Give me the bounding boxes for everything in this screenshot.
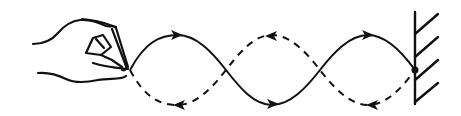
fixed-wall: [415, 12, 438, 104]
fixed-point-dot: [412, 67, 419, 74]
diagram-canvas: [0, 0, 461, 116]
solid-wave: [130, 35, 415, 105]
dashed-wave: [130, 35, 415, 105]
arrow-left-icon: [366, 100, 378, 110]
hand-icon: [33, 19, 128, 82]
standing-wave-diagram: Standing wave on a string between a hand…: [0, 0, 461, 116]
